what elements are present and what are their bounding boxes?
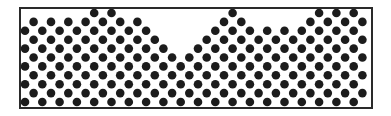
particle-circle bbox=[159, 62, 168, 71]
particle-circle bbox=[280, 44, 289, 53]
particle-circle bbox=[29, 35, 38, 44]
particle-circle bbox=[202, 35, 211, 44]
particle-circle bbox=[47, 71, 56, 80]
particle-circle bbox=[332, 9, 341, 18]
particle-circle bbox=[185, 53, 194, 62]
particle-circle bbox=[246, 98, 255, 107]
particle-circle bbox=[151, 89, 160, 98]
particle-circle bbox=[73, 44, 82, 53]
particle-circle bbox=[358, 35, 367, 44]
particle-circle bbox=[289, 35, 298, 44]
particle-circle bbox=[29, 71, 38, 80]
particle-circle bbox=[99, 89, 108, 98]
particle-circle bbox=[341, 89, 350, 98]
particle-circle bbox=[228, 98, 237, 107]
particle-circle bbox=[263, 80, 272, 89]
particle-circle bbox=[211, 44, 220, 53]
particle-circle bbox=[185, 89, 194, 98]
particle-circle bbox=[176, 62, 185, 71]
particle-circle bbox=[176, 98, 185, 107]
particle-circle bbox=[125, 27, 134, 36]
particle-circle bbox=[349, 80, 358, 89]
particle-circle bbox=[306, 53, 315, 62]
particle-circle bbox=[289, 53, 298, 62]
particle-circle bbox=[254, 35, 263, 44]
particle-circle bbox=[90, 9, 99, 18]
particle-circle bbox=[211, 62, 220, 71]
particle-circle bbox=[358, 18, 367, 27]
particle-circle bbox=[81, 53, 90, 62]
particle-circle bbox=[73, 27, 82, 36]
particle-circle bbox=[228, 80, 237, 89]
particle-circle bbox=[280, 62, 289, 71]
particle-circle bbox=[73, 80, 82, 89]
particle-circle bbox=[38, 98, 47, 107]
particle-circle bbox=[289, 89, 298, 98]
particle-circle bbox=[55, 98, 64, 107]
particle-circle bbox=[64, 53, 73, 62]
particle-circle bbox=[133, 53, 142, 62]
particle-circle bbox=[211, 98, 220, 107]
particle-circle bbox=[151, 35, 160, 44]
particle-circle bbox=[151, 53, 160, 62]
particle-circle bbox=[237, 18, 246, 27]
particle-circle bbox=[90, 80, 99, 89]
particle-circle bbox=[116, 89, 125, 98]
particle-circle bbox=[55, 44, 64, 53]
particle-circle bbox=[341, 18, 350, 27]
particle-circle bbox=[272, 71, 281, 80]
particle-circle bbox=[272, 89, 281, 98]
particle-circle bbox=[237, 89, 246, 98]
particle-circle bbox=[228, 27, 237, 36]
particle-circle bbox=[64, 18, 73, 27]
particle-circle bbox=[107, 9, 116, 18]
particle-circle bbox=[324, 89, 333, 98]
particle-circle bbox=[90, 44, 99, 53]
particle-circle bbox=[194, 98, 203, 107]
particle-circle bbox=[289, 71, 298, 80]
particle-circle bbox=[133, 89, 142, 98]
particle-circle bbox=[315, 80, 324, 89]
particle-circle bbox=[246, 80, 255, 89]
particle-circle bbox=[168, 71, 177, 80]
particle-circle bbox=[47, 35, 56, 44]
particle-circle bbox=[21, 98, 30, 107]
particle-circle bbox=[324, 18, 333, 27]
particle-circle bbox=[38, 44, 47, 53]
particle-circle bbox=[81, 71, 90, 80]
particle-circle bbox=[263, 98, 272, 107]
particle-circle bbox=[315, 62, 324, 71]
particle-circle bbox=[349, 9, 358, 18]
particle-circle bbox=[38, 80, 47, 89]
particle-circle bbox=[272, 35, 281, 44]
particle-circle bbox=[306, 18, 315, 27]
particle-circle bbox=[99, 35, 108, 44]
particle-circle bbox=[349, 98, 358, 107]
particle-circle bbox=[99, 71, 108, 80]
particle-circle bbox=[142, 62, 151, 71]
particle-circle bbox=[306, 89, 315, 98]
particle-circle bbox=[358, 71, 367, 80]
container-frame bbox=[20, 8, 372, 108]
particle-circle bbox=[90, 62, 99, 71]
particle-circle bbox=[298, 27, 307, 36]
particle-circle bbox=[237, 53, 246, 62]
particle-circle bbox=[315, 44, 324, 53]
particle-circle bbox=[81, 35, 90, 44]
particle-circle bbox=[142, 98, 151, 107]
particle-circle bbox=[116, 35, 125, 44]
particle-circle bbox=[220, 53, 229, 62]
particle-circle bbox=[220, 35, 229, 44]
packing-diagram bbox=[0, 0, 391, 116]
particle-circle bbox=[306, 71, 315, 80]
particle-circle bbox=[159, 44, 168, 53]
particle-circle bbox=[272, 53, 281, 62]
particle-circle bbox=[168, 89, 177, 98]
particle-circle bbox=[263, 44, 272, 53]
particle-circle bbox=[202, 89, 211, 98]
particle-circle bbox=[168, 53, 177, 62]
particle-circle bbox=[107, 98, 116, 107]
particle-circle bbox=[55, 80, 64, 89]
particle-circle bbox=[280, 27, 289, 36]
particle-circle bbox=[99, 18, 108, 27]
